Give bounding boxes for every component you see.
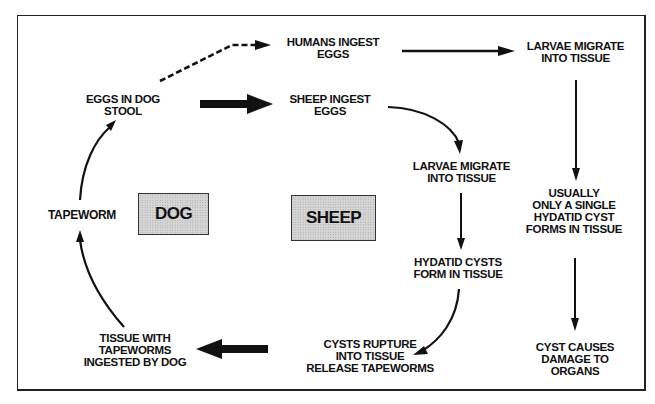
arrow-larvae-to-hydatid <box>457 193 465 250</box>
node-tapeworm: TAPEWORM <box>36 209 128 221</box>
node-line: FORM IN TISSUE <box>403 268 513 280</box>
host-label-dog: DOG <box>155 204 192 224</box>
node-hydatid-cysts-form: HYDATID CYSTS FORM IN TISSUE <box>403 256 513 280</box>
node-sheep-ingest-eggs: SHEEP INGEST EGGS <box>280 93 380 117</box>
node-line: INGESTED BY DOG <box>75 356 195 368</box>
curved-arrow-sheep-to-larvae <box>388 107 463 154</box>
node-line: EGGS <box>278 48 388 60</box>
node-line: ONLY A SINGLE <box>514 199 634 211</box>
node-line: STOOL <box>78 105 168 117</box>
bold-arrow-to-dog <box>196 339 268 359</box>
node-line: TISSUE WITH <box>75 332 195 344</box>
host-box-sheep: SHEEP <box>291 195 376 241</box>
node-line: CYST CAUSES <box>525 341 625 353</box>
node-line: TAPEWORM <box>36 209 128 221</box>
dashed-arrow-to-humans <box>160 40 271 81</box>
node-eggs-in-dog-stool: EGGS IN DOG STOOL <box>78 93 168 117</box>
arrow-humans-to-larvae <box>402 46 515 56</box>
node-line: INTO TISSUE <box>404 172 519 184</box>
node-line: DAMAGE TO <box>525 353 625 365</box>
node-line: HYDATID CYSTS <box>403 256 513 268</box>
node-larvae-migrate-mid: LARVAE MIGRATE INTO TISSUE <box>404 160 519 184</box>
curved-arrow-tissue-to-tapeworm <box>76 230 124 327</box>
node-line: INTO TISSUE <box>300 350 440 362</box>
node-line: FORMS IN TISSUE <box>514 223 634 235</box>
node-single-hydatid-cyst: USUALLY ONLY A SINGLE HYDATID CYST FORMS… <box>514 187 634 235</box>
curved-arrow-tapeworm-to-eggs <box>80 120 116 200</box>
node-line: TAPEWORMS <box>75 344 195 356</box>
node-line: SHEEP INGEST <box>280 93 380 105</box>
node-line: HYDATID CYST <box>514 211 634 223</box>
node-cyst-causes-damage: CYST CAUSES DAMAGE TO ORGANS <box>525 341 625 377</box>
arrow-single-cyst-to-damage <box>571 258 579 331</box>
node-line: HUMANS INGEST <box>278 36 388 48</box>
node-line: ORGANS <box>525 365 625 377</box>
node-line: USUALLY <box>514 187 634 199</box>
node-line: LARVAE MIGRATE <box>404 160 519 172</box>
node-line: EGGS IN DOG <box>78 93 168 105</box>
node-line: INTO TISSUE <box>518 52 633 64</box>
host-label-sheep: SHEEP <box>306 208 361 228</box>
node-cysts-rupture: CYSTS RUPTURE INTO TISSUE RELEASE TAPEWO… <box>300 338 440 374</box>
host-box-dog: DOG <box>138 193 209 235</box>
node-larvae-migrate-top: LARVAE MIGRATE INTO TISSUE <box>518 40 633 64</box>
node-tissue-ingested-by-dog: TISSUE WITH TAPEWORMS INGESTED BY DOG <box>75 332 195 368</box>
node-humans-ingest-eggs: HUMANS INGEST EGGS <box>278 36 388 60</box>
node-line: LARVAE MIGRATE <box>518 40 633 52</box>
bold-arrow-to-sheep <box>200 94 273 114</box>
arrow-larvae-to-single-cyst <box>572 80 580 181</box>
node-line: RELEASE TAPEWORMS <box>300 362 440 374</box>
node-line: CYSTS RUPTURE <box>300 338 440 350</box>
node-line: EGGS <box>280 105 380 117</box>
